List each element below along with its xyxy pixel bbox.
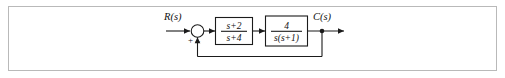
compensator-denominator: s+4 <box>227 33 242 43</box>
block1-input-arrow-icon <box>209 28 215 34</box>
summing-plus-sign: + <box>188 35 193 45</box>
block-diagram: + − s+2 s+4 4 s(s+1) R(s) C(s) <box>0 0 505 78</box>
plant-numerator: 4 <box>284 21 289 31</box>
input-signal-label: R(s) <box>163 11 182 23</box>
compensator-numerator: s+2 <box>227 21 242 31</box>
input-arrow-icon <box>184 28 190 34</box>
plant-denominator: s(s+1) <box>274 33 299 44</box>
figure-root: + − s+2 s+4 4 s(s+1) R(s) C(s) <box>0 0 505 78</box>
block2-input-arrow-icon <box>259 28 265 34</box>
output-arrow-icon <box>338 28 344 34</box>
output-signal-label: C(s) <box>313 11 332 23</box>
